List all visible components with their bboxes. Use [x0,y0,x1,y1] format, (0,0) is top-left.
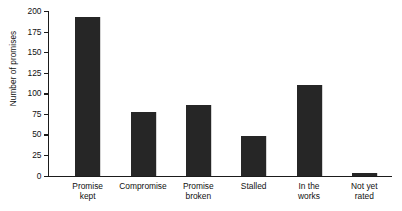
y-tick-mark [44,176,49,177]
bar [131,112,156,175]
y-tick-label: 125 [28,68,42,78]
y-axis-title: Number of promises [9,9,18,129]
bar-chart: Number of promises 025507510012515017520… [0,0,402,211]
plot-area: 0255075100125150175200 [48,11,392,177]
y-tick-mark [44,11,49,12]
y-tick-mark [44,32,49,33]
bar [186,105,211,176]
y-tick-mark [44,155,49,156]
y-tick-mark [44,73,49,74]
y-tick-mark [44,134,49,135]
y-tick-label: 25 [32,150,41,160]
y-tick-label: 175 [28,27,42,37]
y-tick-label: 0 [37,171,42,181]
bar [241,136,266,176]
y-tick-label: 75 [32,109,41,119]
y-tick-label: 150 [28,47,42,57]
y-tick-label: 100 [28,88,42,98]
y-axis-line [48,11,49,177]
y-tick-label: 50 [32,129,41,139]
bar [352,173,377,175]
y-tick-label: 200 [28,6,42,16]
bar [75,17,100,176]
x-axis-line [48,176,392,177]
y-tick-mark [44,114,49,115]
x-category-label: Not yet rated [319,181,402,202]
y-tick-mark [44,93,49,94]
y-tick-mark [44,52,49,53]
bar [297,85,322,176]
